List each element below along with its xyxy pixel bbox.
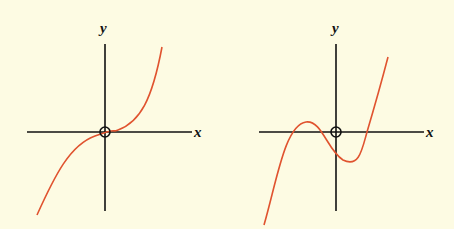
graph-left-cubic: y x <box>0 0 227 229</box>
graph-right-svg <box>227 0 454 229</box>
cubic-curve <box>264 57 388 225</box>
y-axis-label: y <box>100 21 107 36</box>
graph-right-cubic: y x <box>227 0 454 229</box>
x-axis-label: x <box>194 125 202 140</box>
x-axis-label: x <box>426 125 434 140</box>
graph-left-svg <box>0 0 227 229</box>
y-axis-label: y <box>332 21 339 36</box>
